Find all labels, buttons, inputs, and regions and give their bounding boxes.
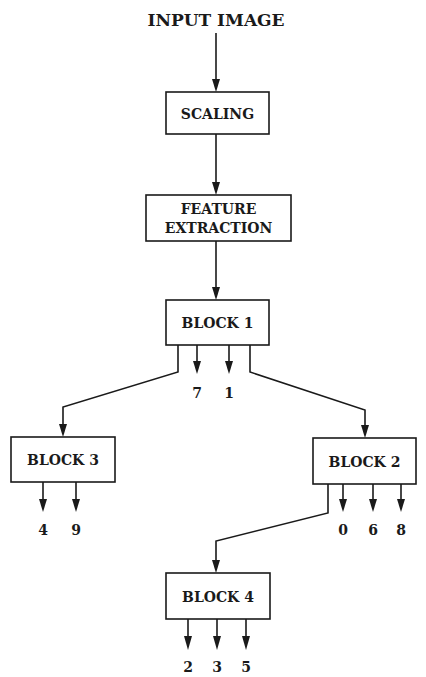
feature-extraction-node: FEATURE EXTRACTION — [146, 195, 291, 241]
block1-output-1: 1 — [224, 385, 234, 401]
block2-output-arrows — [339, 484, 405, 512]
block2-output-8: 8 — [396, 522, 406, 538]
arrow-scaling-to-feature — [212, 134, 220, 195]
scaling-label: SCALING — [181, 106, 254, 122]
block3-output-4: 4 — [38, 522, 48, 538]
arrow-block1-to-block2 — [250, 345, 369, 438]
block1-label: BLOCK 1 — [182, 315, 254, 331]
arrow-input-to-scaling — [212, 33, 220, 92]
block4-node: BLOCK 4 — [166, 573, 270, 619]
block4-output-2: 2 — [183, 659, 193, 675]
flowchart-diagram: INPUT IMAGE SCALING FEATURE EXTRACTION B… — [0, 0, 426, 677]
block3-output-arrows — [39, 482, 80, 512]
input-image-label: INPUT IMAGE — [147, 10, 284, 30]
block1-node: BLOCK 1 — [166, 300, 269, 345]
block3-label: BLOCK 3 — [27, 452, 99, 468]
block2-output-6: 6 — [368, 522, 378, 538]
block4-label: BLOCK 4 — [182, 589, 254, 605]
block4-output-5: 5 — [241, 659, 251, 675]
arrow-block2-to-block4 — [212, 484, 328, 573]
arrow-block1-to-block3 — [59, 345, 178, 437]
block3-node: BLOCK 3 — [11, 437, 115, 482]
scaling-node: SCALING — [166, 92, 269, 134]
block1-output-7: 7 — [192, 385, 202, 401]
block4-output-arrows — [184, 619, 250, 650]
arrow-feature-to-block1 — [212, 241, 220, 300]
block3-output-9: 9 — [71, 522, 81, 538]
block2-label: BLOCK 2 — [329, 454, 401, 470]
block4-output-3: 3 — [212, 659, 222, 675]
block1-output-arrows — [193, 345, 233, 374]
feature-label-line2: EXTRACTION — [165, 220, 273, 236]
block2-output-0: 0 — [338, 522, 348, 538]
block2-node: BLOCK 2 — [313, 438, 416, 484]
feature-label-line1: FEATURE — [181, 201, 257, 217]
